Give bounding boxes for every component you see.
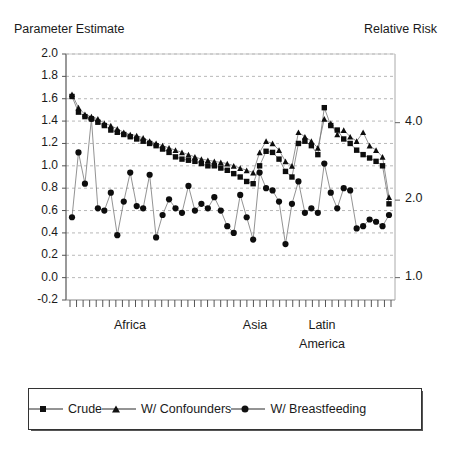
legend-label-crude: Crude — [68, 402, 102, 416]
left-tick-label: 0.8 — [22, 180, 58, 194]
group-label: America — [282, 337, 362, 351]
left-tick-label: 0.2 — [22, 247, 58, 261]
right-tick-label: 2.0 — [405, 191, 441, 205]
left-tick-label: 1.6 — [22, 91, 58, 105]
right-tick-label: 4.0 — [405, 114, 441, 128]
plot-canvas — [0, 0, 449, 449]
left-tick-label: 1.4 — [22, 113, 58, 127]
legend-label-breastfeeding: W/ Breastfeeding — [270, 402, 366, 416]
left-tick-label: 0.0 — [22, 270, 58, 284]
legend-row: Crude W/ Confounders W/ Breastfeeding — [29, 389, 421, 429]
triangle-marker-icon — [102, 403, 136, 415]
right-tick-label: 1.0 — [405, 269, 441, 283]
legend-item-crude[interactable]: Crude — [29, 402, 102, 416]
left-tick-label: 1.8 — [22, 68, 58, 82]
left-tick-label: 0.6 — [22, 203, 58, 217]
square-marker-icon — [29, 403, 63, 415]
chart-figure: Parameter Estimate Relative Risk 2.01.81… — [0, 0, 449, 449]
left-tick-label: 0.4 — [22, 225, 58, 239]
left-tick-label: 1.2 — [22, 135, 58, 149]
left-tick-label: -0.2 — [22, 292, 58, 306]
legend-label-confounders: W/ Confounders — [141, 402, 231, 416]
legend: Crude W/ Confounders W/ Breastfeeding — [28, 388, 422, 430]
group-label: Africa — [90, 318, 170, 332]
legend-item-breastfeeding[interactable]: W/ Breastfeeding — [231, 402, 366, 416]
left-tick-label: 2.0 — [22, 46, 58, 60]
legend-item-confounders[interactable]: W/ Confounders — [102, 402, 231, 416]
left-tick-label: 1.0 — [22, 158, 58, 172]
group-label: Latin — [282, 318, 362, 332]
circle-marker-icon — [231, 403, 265, 415]
